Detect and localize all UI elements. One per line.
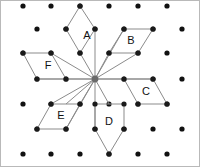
lattice-dot <box>179 126 184 131</box>
lattice-dot <box>164 3 169 8</box>
shape-d-vertex <box>92 101 97 106</box>
shape-a-vertex <box>92 26 97 31</box>
shape-b-vertex <box>121 26 126 31</box>
pinwheel-figure: ABCDEF <box>0 0 200 167</box>
shape-b-vertex <box>106 50 111 55</box>
shape-f-vertex <box>63 76 68 81</box>
spoke-to-d-lower <box>95 79 109 104</box>
lattice-dot <box>20 101 25 106</box>
lattice-dot <box>34 26 39 31</box>
shape-f-vertex <box>48 50 53 55</box>
lattice-dot <box>48 3 53 8</box>
shape-b-label: B <box>127 34 134 46</box>
shape-c-vertex <box>135 101 140 106</box>
lattice-dot <box>150 126 155 131</box>
center-hub-group <box>92 76 99 83</box>
shape-b-vertex <box>135 50 140 55</box>
shape-f-label: F <box>45 59 52 71</box>
shape-c-vertex <box>150 76 155 81</box>
lattice-dot <box>20 151 25 156</box>
shape-f-vertex <box>20 50 25 55</box>
lattice-dot <box>164 50 169 55</box>
lattice-dot <box>77 151 82 156</box>
lattice-dot <box>179 26 184 31</box>
center-hub-dot <box>92 76 99 83</box>
shape-d-vertex <box>121 126 126 131</box>
spoke-to-e-upper <box>66 79 95 104</box>
lattice-dot <box>48 151 53 156</box>
shape-d-label: D <box>105 115 113 127</box>
shape-f-vertex <box>34 76 39 81</box>
shape-c-vertex <box>121 76 126 81</box>
lattice-dot <box>164 151 169 156</box>
shape-b-vertex <box>150 26 155 31</box>
shape-d-outline <box>95 104 124 154</box>
lattice-dot <box>20 3 25 8</box>
shape-a-vertex <box>77 50 82 55</box>
shape-a-vertex <box>77 3 82 8</box>
shape-e-label: E <box>57 109 64 121</box>
lattice-dot <box>135 151 140 156</box>
lattice-dot <box>135 3 140 8</box>
shape-d-vertex <box>106 151 111 156</box>
shape-c-vertex <box>164 101 169 106</box>
spoke-to-f-upper <box>51 53 95 79</box>
shape-e-vertex <box>63 126 68 131</box>
figure-canvas: ABCDEF <box>1 1 200 167</box>
lattice-dot-grid <box>20 3 184 156</box>
shape-d-vertex <box>121 101 126 106</box>
shape-d-vertex <box>92 126 97 131</box>
shape-e-vertex <box>48 101 53 106</box>
shape-a-label: A <box>83 29 91 41</box>
lattice-dot <box>106 3 111 8</box>
lattice-dot <box>179 76 184 81</box>
spoke-to-e-side <box>51 79 95 104</box>
shape-c-label: C <box>142 85 150 97</box>
shape-e-vertex <box>77 101 82 106</box>
shape-a-vertex <box>63 26 68 31</box>
shape-e-vertex <box>34 126 39 131</box>
